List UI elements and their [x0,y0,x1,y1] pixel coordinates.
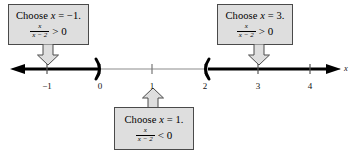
fraction-bottom-numerator: x [142,127,149,135]
fraction-left-numerator: x [36,23,43,31]
tick-label-4: 4 [300,82,320,91]
fraction-bottom-denominator: x − 2 [136,135,155,144]
callout-right-prefix: Choose [225,10,260,21]
tick-label-1: 1 [142,82,162,91]
callout-bottom-prefix: Choose [124,114,159,125]
callout-left-statement: Choose x = −1. [16,10,81,22]
relation-right: > 0 [259,26,273,37]
callout-right-inequality: x x − 2 > 0 [237,23,273,39]
callout-box-left: Choose x = −1. x x − 2 > 0 [8,4,89,45]
tick-label-3: 3 [248,82,268,91]
callout-right-suffix: = 3. [265,10,285,21]
tick-label-0: 0 [90,82,110,91]
fraction-left: x x − 2 [30,23,49,39]
callout-box-right: Choose x = 3. x x − 2 > 0 [217,4,293,45]
callout-left-prefix: Choose [16,10,51,21]
fraction-left-denominator: x − 2 [30,31,49,40]
sign-chart-figure: Choose x = −1. x x − 2 > 0 Choose x = 3.… [0,0,354,161]
callout-box-bottom: Choose x = 1. x x − 2 < 0 [114,107,194,150]
callout-left-suffix: = −1. [56,10,82,21]
relation-left: > 0 [52,26,66,37]
tick-label-2: 2 [195,82,215,91]
callout-bottom-inequality: x x − 2 < 0 [136,127,172,143]
axis-label-x: x [344,63,348,73]
callout-left-inequality: x x − 2 > 0 [30,23,66,39]
tick-label--1: −1 [37,82,57,91]
axis-arrow-left-icon [10,64,25,74]
axis-arrow-right-icon [326,64,341,74]
relation-bottom: < 0 [158,130,172,141]
fraction-right: x x − 2 [237,23,256,39]
callout-right-statement: Choose x = 3. [225,10,284,22]
fraction-right-denominator: x − 2 [237,31,256,40]
fraction-bottom: x x − 2 [136,127,155,143]
callout-bottom-statement: Choose x = 1. [124,114,183,126]
fraction-right-numerator: x [243,23,250,31]
number-line [0,55,354,100]
callout-bottom-suffix: = 1. [164,114,184,125]
